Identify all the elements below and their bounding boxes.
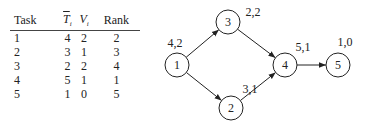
node-annotation: 5,1 (296, 40, 311, 54)
node-label: 3 (225, 15, 231, 29)
node-1: 14,2 (165, 36, 189, 77)
node-label: 2 (228, 101, 234, 115)
node-annotation: 4,2 (168, 36, 183, 50)
node-4: 45,1 (273, 40, 311, 77)
edge-1-2 (186, 72, 221, 100)
edge-1-3 (186, 30, 219, 58)
edge-3-4 (238, 29, 276, 58)
node-annotation: 1,0 (338, 35, 353, 49)
node-annotation: 2,2 (246, 5, 261, 19)
task-graph: 14,223,132,245,151,0 (0, 0, 366, 125)
node-5: 51,0 (326, 35, 353, 77)
node-label: 1 (174, 58, 180, 72)
node-label: 4 (282, 58, 288, 72)
node-2: 23,1 (219, 82, 258, 120)
node-label: 5 (335, 58, 341, 72)
node-annotation: 3,1 (243, 82, 258, 96)
